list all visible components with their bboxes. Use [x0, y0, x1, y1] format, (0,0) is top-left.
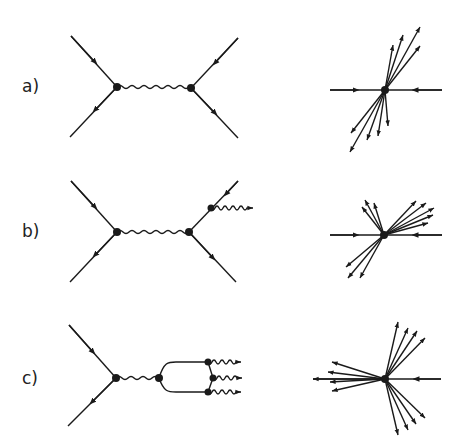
feynman-diagrams [0, 0, 473, 448]
event-display-b [330, 200, 442, 278]
feynman-diagram-a [70, 36, 238, 138]
feynman-diagram-b [70, 181, 253, 282]
feynman-diagram-c [68, 325, 242, 426]
event-display-c [313, 322, 441, 435]
vertex-dots [112, 83, 389, 396]
